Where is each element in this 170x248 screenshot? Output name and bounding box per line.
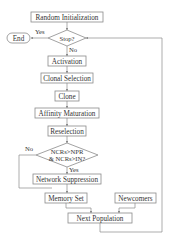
node-label: Clone [58, 93, 75, 101]
node-label: Stop? [59, 35, 74, 42]
node-label: Activation [52, 58, 83, 66]
node-label: Clonal Selection [43, 75, 91, 83]
node-random-initialization: Random Initialization [31, 12, 103, 22]
node-label: End [13, 35, 25, 43]
node-label-line1: NCRs>NPR [51, 148, 84, 155]
node-label: Affinity Maturation [39, 110, 96, 118]
node-label: Newcomers [118, 195, 153, 203]
edge-newcomers-to-next [119, 203, 135, 213]
node-condition-decision: NCRs>NPR & NCRs>IN? [36, 143, 98, 167]
node-label: Random Initialization [36, 14, 99, 22]
node-next-population: Next Population [68, 213, 132, 223]
node-newcomers: Newcomers [115, 193, 156, 203]
node-affinity-maturation: Affinity Maturation [35, 108, 99, 118]
node-end: End [7, 33, 30, 43]
node-label-line2: & NCRs>IN? [49, 155, 86, 162]
node-stop-decision: Stop? [48, 30, 86, 46]
node-network-suppression: Network Suppression [33, 174, 101, 184]
node-clonal-selection: Clonal Selection [41, 73, 93, 83]
edge-memory-to-next [66, 203, 91, 213]
node-label: Next Population [77, 215, 124, 223]
node-label: Memory Set [48, 195, 84, 203]
flowchart: Random Initialization Stop? End Yes No A… [0, 0, 170, 248]
edge-label-stop-no: No [69, 46, 78, 53]
edge-label-stop-yes: Yes [35, 28, 45, 35]
node-clone: Clone [55, 91, 79, 101]
edge-label-cond-no: No [25, 145, 34, 152]
node-reselection: Reselection [48, 126, 86, 136]
edge-label-cond-yes: Yes [69, 166, 79, 173]
node-memory-set: Memory Set [45, 193, 87, 203]
node-activation: Activation [48, 56, 86, 66]
node-label: Network Suppression [36, 176, 98, 184]
node-label: Reselection [50, 128, 84, 136]
